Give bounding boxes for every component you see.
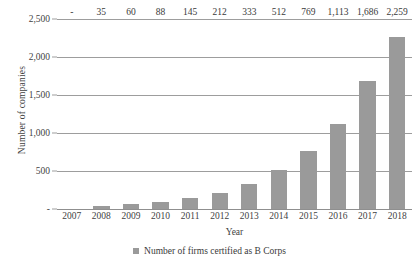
bar: 1,686 (359, 81, 375, 209)
bar: 512 (271, 170, 287, 209)
bar-series: -3560881452123335127691,1131,6862,259 (57, 19, 412, 209)
x-axis-tick-label: 2011 (175, 211, 205, 221)
bar-value-label: 512 (272, 7, 286, 17)
plot-area: -5001,0001,5002,0002,500 -35608814521233… (57, 19, 412, 209)
bar: 769 (300, 151, 316, 209)
bar-value-label: - (70, 7, 73, 17)
x-axis-tick-label: 2013 (234, 211, 264, 221)
bar: 35 (93, 206, 109, 209)
bar-value-label: 60 (126, 7, 136, 17)
x-axis-title: Year (57, 227, 412, 237)
y-axis-tick-label: 2,000 (29, 52, 57, 62)
y-axis-tick-label: 2,500 (29, 14, 57, 24)
y-axis-tick-label: 500 (36, 166, 57, 176)
bar-slot: - (57, 19, 87, 209)
bar-value-label: 769 (301, 7, 315, 17)
x-axis-tick-label: 2009 (116, 211, 146, 221)
x-axis-tick-label: 2016 (323, 211, 353, 221)
bar-value-label: 35 (97, 7, 107, 17)
x-axis-tick-label: 2010 (146, 211, 176, 221)
legend-swatch-icon (133, 248, 139, 254)
bar-slot: 1,113 (323, 19, 353, 209)
bar-slot: 60 (116, 19, 146, 209)
bar-value-label: 212 (213, 7, 227, 17)
bar-value-label: 1,113 (327, 7, 348, 17)
x-axis-tick-label: 2008 (87, 211, 117, 221)
bar-slot: 769 (294, 19, 324, 209)
bar-value-label: 2,259 (386, 7, 407, 17)
bar: 212 (212, 193, 228, 209)
y-axis-tick-label: 1,000 (29, 128, 57, 138)
bar: 60 (123, 204, 139, 209)
legend: Number of firms certified as B Corps (0, 246, 419, 256)
bar-slot: 2,259 (382, 19, 412, 209)
bar-value-label: 88 (156, 7, 166, 17)
bar: 333 (241, 184, 257, 209)
bar-value-label: 1,686 (357, 7, 378, 17)
y-axis-title: Number of companies (17, 30, 27, 190)
bar-slot: 35 (87, 19, 117, 209)
x-axis-tick-label: 2012 (205, 211, 235, 221)
legend-label: Number of firms certified as B Corps (144, 246, 286, 256)
bar: 88 (152, 202, 168, 209)
bar-slot: 1,686 (353, 19, 383, 209)
bar: 145 (182, 198, 198, 209)
x-axis-tick-label: 2015 (294, 211, 324, 221)
bar-chart: Number of companies -5001,0001,5002,0002… (0, 0, 419, 268)
x-axis-tick-labels: 2007200820092010201120122013201420152016… (57, 211, 412, 221)
bar-value-label: 145 (183, 7, 197, 17)
x-axis-tick-label: 2014 (264, 211, 294, 221)
bar-value-label: 333 (242, 7, 256, 17)
gridline (57, 209, 412, 210)
x-axis-tick-label: 2018 (382, 211, 412, 221)
y-axis-tick-label: 1,500 (29, 90, 57, 100)
bar-slot: 88 (146, 19, 176, 209)
bar-slot: 212 (205, 19, 235, 209)
x-axis-tick-label: 2007 (57, 211, 87, 221)
bar-slot: 512 (264, 19, 294, 209)
bar-slot: 333 (234, 19, 264, 209)
x-axis-tick-label: 2017 (353, 211, 383, 221)
bar: 1,113 (330, 124, 346, 209)
bar: 2,259 (389, 37, 405, 209)
bar-slot: 145 (175, 19, 205, 209)
y-axis-tick-label: - (47, 204, 57, 214)
